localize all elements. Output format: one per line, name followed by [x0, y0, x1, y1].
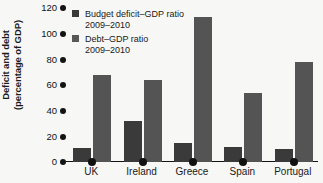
y-axis-tick: 20 — [46, 130, 66, 142]
bar-group — [73, 8, 111, 162]
bar-chart: Deficit and debt (percentage of GDP) 020… — [0, 0, 323, 183]
x-axis-category-label: Spain — [217, 166, 267, 177]
baseline-marker-dot-icon — [88, 158, 96, 166]
y-axis-tick-label: 100 — [41, 28, 60, 40]
y-axis-tick: 80 — [46, 53, 66, 65]
baseline-marker-dot-icon — [189, 158, 197, 166]
baseline-marker-dot-icon — [139, 158, 147, 166]
y-axis-tick: 60 — [46, 79, 66, 91]
bar-group — [124, 8, 162, 162]
baseline-marker-dot-icon — [290, 158, 298, 166]
y-axis-tick: 0 — [52, 156, 66, 168]
y-axis-tick: 100 — [41, 28, 66, 40]
x-axis-category-label: Greece — [167, 166, 217, 177]
bar-group — [275, 8, 313, 162]
bar-group — [224, 8, 262, 162]
bar-group — [174, 8, 212, 162]
bar-debt — [144, 80, 162, 162]
y-axis-tick-label: 60 — [46, 79, 60, 91]
y-axis-tick-label: 0 — [52, 156, 60, 168]
x-axis-category-label: UK — [66, 166, 116, 177]
plot-area: UKIrelandGreeceSpainPortugal — [66, 8, 318, 162]
x-axis-category-label: Ireland — [116, 166, 166, 177]
x-axis-category-label: Portugal — [268, 166, 318, 177]
bar-debt — [244, 93, 262, 162]
bar-deficit — [124, 121, 142, 162]
baseline-marker-dot-icon — [239, 158, 247, 166]
y-axis: 020406080100120 — [0, 0, 66, 183]
y-axis-tick: 120 — [41, 2, 66, 14]
y-axis-tick-label: 80 — [46, 54, 60, 66]
y-axis-tick-label: 20 — [46, 131, 60, 143]
y-axis-tick: 40 — [46, 105, 66, 117]
bar-debt — [295, 62, 313, 162]
y-axis-tick-label: 120 — [41, 2, 60, 14]
y-axis-tick-label: 40 — [46, 105, 60, 117]
bar-debt — [194, 17, 212, 162]
bar-debt — [93, 75, 111, 162]
